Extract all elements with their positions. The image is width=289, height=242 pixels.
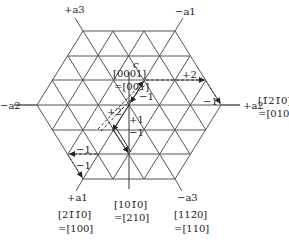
a12-3index-label: =[110] (174, 223, 209, 234)
a12-4index-label: [112̄0] (174, 209, 207, 220)
c-4index-label: [0001] (113, 68, 146, 79)
step-label-upper-plus2: +2 (182, 69, 197, 80)
axis-label-minus-a3: −a3 (177, 192, 198, 203)
step-label-center-plus2: +2 (107, 106, 122, 117)
a2-3index-label: =[010] (258, 108, 289, 119)
axis-label-minus-a2: −a2 (0, 100, 21, 111)
a1-3index-label: =[100] (58, 223, 93, 234)
step-label-lower-minus1-a: −1 (76, 144, 91, 155)
step-label-upper-minus1: −1 (203, 96, 218, 107)
a2-4index-label: [1̄21̄0] (258, 95, 289, 106)
step-label-center-plus1: +1 (129, 114, 144, 125)
axis-label-plus-a3: +a3 (64, 4, 85, 15)
d210-3index-label: =[210] (114, 212, 149, 223)
axis-label-minus-a1: −a1 (175, 6, 196, 17)
step-label-lower-minus1-b: −1 (76, 160, 91, 171)
step-label-center-minus1-lower: −1 (129, 127, 144, 138)
d210-4index-label: [101̄0] (114, 199, 147, 210)
step-label-center-minus1: −1 (139, 91, 154, 102)
axis-label-plus-a1: +a1 (67, 192, 88, 203)
a1-4index-label: [21̄1̄0] (58, 209, 91, 220)
